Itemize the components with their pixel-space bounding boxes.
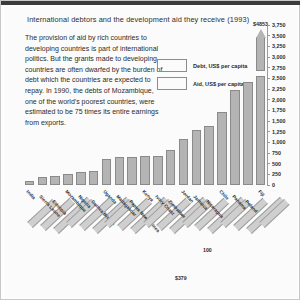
y-axis-tick-label: 1,750 — [272, 107, 286, 113]
y-axis-tick: 500 — [267, 161, 281, 167]
y-axis-tick: 2,000 — [267, 97, 286, 103]
y-axis-tick-mark — [267, 163, 270, 164]
y-axis-tick-mark — [267, 89, 270, 90]
y-axis-tick: 3,750 — [267, 22, 286, 28]
y-axis-tick-label: 3,750 — [272, 22, 286, 28]
bar-slot — [151, 25, 164, 185]
y-axis-tick: 250 — [267, 171, 281, 177]
y-axis-tick-label: 2,750 — [272, 65, 286, 71]
y-axis-tick: 2,750 — [267, 65, 286, 71]
bar: $4853 — [256, 37, 266, 185]
y-axis-tick-label: 750 — [272, 150, 281, 156]
y-axis-tick-label: 250 — [272, 171, 281, 177]
value-callout: 100 — [203, 247, 212, 253]
bar — [63, 174, 73, 185]
y-axis-tick: 3,250 — [267, 43, 286, 49]
y-axis-tick-mark — [267, 131, 270, 132]
y-axis-tick-label: 1,000 — [272, 139, 286, 145]
top-rule-divider — [1, 1, 300, 5]
y-axis-tick-label: 0 — [272, 182, 275, 188]
bar — [140, 156, 150, 185]
y-axis-tick-mark — [267, 185, 270, 186]
y-axis-tick-label: 3,250 — [272, 43, 286, 49]
y-axis-tick-label: 2,000 — [272, 97, 286, 103]
y-axis-tick: 1,000 — [267, 139, 286, 145]
bar — [153, 156, 163, 185]
bar-slot — [139, 25, 152, 185]
y-axis-tick-mark — [267, 121, 270, 122]
y-axis-tick: 1,500 — [267, 118, 286, 124]
bar — [89, 171, 99, 185]
y-axis: 3,7503,5003,2503,0002,7502,5002,2502,000… — [267, 25, 300, 185]
bar — [50, 176, 60, 185]
bar — [217, 112, 227, 185]
y-axis-tick-mark — [267, 99, 270, 100]
y-axis-tick: 3,500 — [267, 33, 286, 39]
bar-slot — [36, 25, 49, 185]
bar — [115, 157, 125, 185]
bar-slot — [203, 25, 216, 185]
y-axis-tick-label: 500 — [272, 161, 281, 167]
bar — [192, 130, 202, 185]
y-axis-tick: 750 — [267, 150, 281, 156]
y-axis-tick-mark — [267, 174, 270, 175]
bar-slot: $4853 — [254, 25, 267, 185]
y-axis-tick-mark — [267, 67, 270, 68]
bar-slot — [74, 25, 87, 185]
y-axis-tick-mark — [267, 57, 270, 58]
y-axis-tick-label: 2,250 — [272, 86, 286, 92]
y-axis-tick: 2,250 — [267, 86, 286, 92]
figure-frame: International debtors and the developmen… — [0, 0, 300, 300]
bar — [102, 159, 112, 185]
bar-slot — [62, 25, 75, 185]
bar-arrow-tip — [256, 29, 266, 38]
bar — [179, 139, 189, 185]
y-axis-tick-label: 3,000 — [272, 54, 286, 60]
y-axis-tick-label: 1,250 — [272, 129, 286, 135]
bar — [127, 157, 137, 185]
y-axis-tick: 1,750 — [267, 107, 286, 113]
bar-slot — [113, 25, 126, 185]
bar-slot — [177, 25, 190, 185]
bar-slot — [23, 25, 36, 185]
y-axis-tick-mark — [267, 78, 270, 79]
y-axis-tick-mark — [267, 110, 270, 111]
bar — [204, 126, 214, 185]
bar-value-label: $4853 — [253, 21, 268, 27]
y-axis-tick-label: 2,500 — [272, 75, 286, 81]
bar-slot — [164, 25, 177, 185]
bar-slot — [87, 25, 100, 185]
bar-slot — [100, 25, 113, 185]
chart-figure: International debtors and the developmen… — [5, 7, 297, 297]
chart-title: International debtors and the developmen… — [27, 15, 249, 24]
category-label: India — [26, 189, 37, 200]
bar — [76, 172, 86, 185]
y-axis-tick: 0 — [267, 182, 275, 188]
bar-slot — [229, 25, 242, 185]
y-axis-tick: 1,250 — [267, 129, 286, 135]
y-axis-tick-mark — [267, 142, 270, 143]
bar-series-debt: $4853 — [23, 25, 267, 185]
y-axis-tick-mark — [267, 25, 270, 26]
y-axis-tick: 2,500 — [267, 75, 286, 81]
bar-slot — [126, 25, 139, 185]
category-label: Chile — [218, 189, 229, 201]
value-callout: $379 — [175, 275, 187, 281]
bar — [166, 150, 176, 185]
bar-slot — [190, 25, 203, 185]
bar-slot — [241, 25, 254, 185]
y-axis-tick-mark — [267, 153, 270, 154]
bar — [38, 177, 48, 185]
y-axis-tick-label: 3,500 — [272, 33, 286, 39]
category-label: Fiji — [257, 189, 265, 197]
bar-slot — [49, 25, 62, 185]
bar — [243, 82, 253, 185]
y-axis-tick: 3,000 — [267, 54, 286, 60]
y-axis-tick-mark — [267, 46, 270, 47]
y-axis-tick-label: 1,500 — [272, 118, 286, 124]
bar-slot — [216, 25, 229, 185]
y-axis-tick-mark — [267, 35, 270, 36]
x-axis-category-labels: IndiaSierra LeoneEthiopiaMozambiqueNiger… — [23, 185, 267, 297]
axis-break-band — [256, 70, 266, 77]
bar — [230, 90, 240, 185]
